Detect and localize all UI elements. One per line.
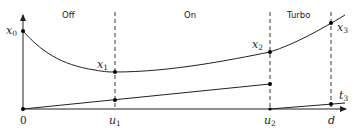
label-x3: x3: [337, 21, 348, 35]
label-x0: x0: [6, 24, 17, 38]
label-x1: x1: [97, 58, 108, 72]
tick-label-u1: u1: [109, 114, 121, 128]
point-x1: [113, 70, 117, 74]
point-u2-axis: [268, 107, 271, 110]
time-segment-2: [270, 103, 345, 109]
region-label-on: On: [184, 10, 196, 20]
state-curve: [23, 15, 345, 72]
point-origin: [21, 107, 25, 111]
label-t3: t3: [339, 89, 348, 103]
point-u2-time: [268, 82, 272, 86]
region-label-off: Off: [62, 10, 76, 20]
point-t3: [329, 102, 333, 106]
point-u1-time: [113, 98, 117, 102]
point-x3: [329, 21, 333, 25]
tick-label-u2: u2: [264, 114, 276, 128]
label-x2: x2: [252, 38, 263, 52]
tick-label-d: d: [328, 114, 335, 127]
region-label-turbo: Turbo: [286, 10, 310, 20]
diagram-canvas: Off On Turbo x0 x1 x2 x3 t3 0 u1 u2 d: [0, 0, 360, 132]
point-x0: [21, 29, 25, 33]
time-segment-1: [23, 84, 270, 109]
point-x2: [268, 50, 272, 54]
tick-label-origin: 0: [20, 114, 27, 126]
